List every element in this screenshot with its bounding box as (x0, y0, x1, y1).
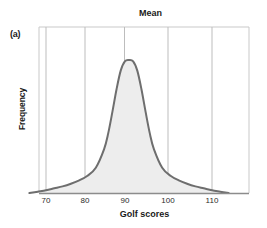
x-tick-label-70: 70 (42, 196, 51, 205)
x-tick-label-100: 100 (161, 196, 174, 205)
figure-container: (a) Mean Frequency 70 80 90 100 110 Golf… (0, 0, 267, 228)
x-tick-label-80: 80 (81, 196, 90, 205)
x-tick-label-110: 110 (206, 196, 219, 205)
distribution-plot (0, 0, 267, 228)
x-tick-label-90: 90 (121, 196, 130, 205)
x-axis-label: Golf scores (11, 209, 267, 219)
distribution-area-fill (29, 60, 228, 193)
